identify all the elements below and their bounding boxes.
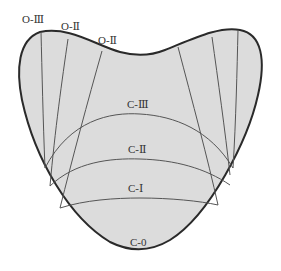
label-c3: C-Ⅲ [127,98,149,110]
label-c2: C-Ⅱ [128,143,146,155]
label-o1: O-Ⅱ [98,34,117,46]
cusp-diagram: O-Ⅲ O-Ⅱ O-Ⅱ C-Ⅲ C-Ⅱ C-Ⅰ C-0 [0,0,281,271]
label-o3: O-Ⅲ [22,13,44,25]
label-c1: C-Ⅰ [128,182,143,194]
label-c0: C-0 [130,236,147,248]
label-o2: O-Ⅱ [61,20,80,32]
